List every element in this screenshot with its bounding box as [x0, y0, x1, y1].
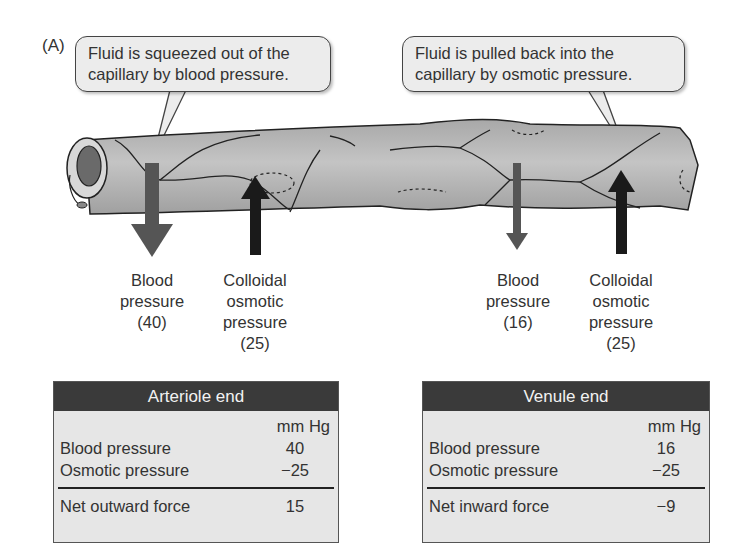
row-value: −25	[260, 459, 330, 481]
row-value: 16	[631, 437, 701, 459]
callout-line: Fluid is pulled back into the	[415, 43, 672, 64]
row-label: Osmotic pressure	[60, 459, 189, 481]
label-line: pressure	[214, 312, 296, 333]
row-value: 15	[260, 495, 330, 517]
row-label: Blood pressure	[429, 437, 540, 459]
table-row: Osmotic pressure −25	[423, 459, 709, 481]
sum-divider	[58, 487, 334, 489]
table-row: Osmotic pressure −25	[54, 459, 338, 481]
label-line: (16)	[478, 312, 558, 333]
table-row: Blood pressure 40	[54, 437, 338, 459]
arteriole-end-table: Arteriole end mm Hg Blood pressure 40 Os…	[53, 381, 339, 543]
label-line: pressure	[112, 291, 192, 312]
net-row: Net outward force 15	[54, 495, 338, 517]
table-title: Venule end	[423, 382, 709, 411]
panel-label: (A)	[42, 36, 65, 56]
label-venous-blood-pressure: Blood pressure (16)	[478, 270, 558, 333]
row-value: −25	[631, 459, 701, 481]
label-line: Blood	[112, 270, 192, 291]
row-label: Net outward force	[60, 495, 190, 517]
label-line: (40)	[112, 312, 192, 333]
units-row: mm Hg	[423, 415, 709, 437]
label-arterial-osmotic-pressure: Colloidal osmotic pressure (25)	[214, 270, 296, 354]
row-label: Blood pressure	[60, 437, 171, 459]
label-line: (25)	[214, 333, 296, 354]
row-value: −9	[631, 495, 701, 517]
label-arterial-blood-pressure: Blood pressure (40)	[112, 270, 192, 333]
sum-divider	[427, 487, 705, 489]
callout-line: Fluid is squeezed out of the	[88, 43, 318, 64]
callout-line: capillary by blood pressure.	[88, 64, 318, 85]
callout-line: capillary by osmotic pressure.	[415, 64, 672, 85]
callout-fluid-pulled-back: Fluid is pulled back into the capillary …	[402, 36, 685, 92]
label-line: osmotic	[580, 291, 662, 312]
table-row: Blood pressure 16	[423, 437, 709, 459]
label-venous-osmotic-pressure: Colloidal osmotic pressure (25)	[580, 270, 662, 354]
label-line: pressure	[580, 312, 662, 333]
label-line: Colloidal	[580, 270, 662, 291]
label-line: (25)	[580, 333, 662, 354]
row-value: 40	[260, 437, 330, 459]
row-label: Net inward force	[429, 495, 549, 517]
table-title: Arteriole end	[54, 382, 338, 411]
label-line: Blood	[478, 270, 558, 291]
units-label: mm Hg	[648, 415, 701, 437]
label-line: pressure	[478, 291, 558, 312]
units-label: mm Hg	[277, 415, 330, 437]
venule-end-table: Venule end mm Hg Blood pressure 16 Osmot…	[422, 381, 710, 543]
net-row: Net inward force −9	[423, 495, 709, 517]
row-label: Osmotic pressure	[429, 459, 558, 481]
label-line: Colloidal	[214, 270, 296, 291]
units-row: mm Hg	[54, 415, 338, 437]
callout-fluid-squeezed-out: Fluid is squeezed out of the capillary b…	[75, 36, 331, 92]
label-line: osmotic	[214, 291, 296, 312]
